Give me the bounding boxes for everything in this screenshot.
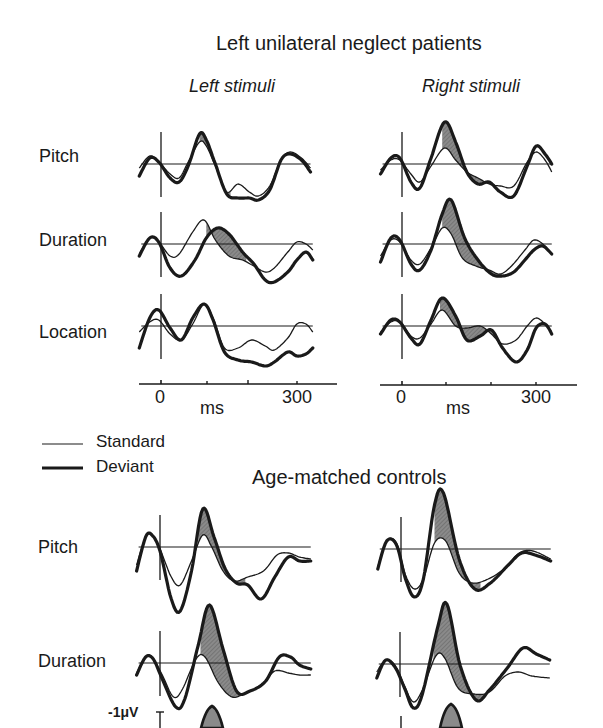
panel-age-matched-controls-left-stimuli-pitch <box>137 508 311 612</box>
waveform-panels <box>137 122 552 709</box>
deviant-waveform <box>137 605 311 709</box>
difference-shading <box>435 489 481 590</box>
panel-age-matched-controls-right-stimuli-pitch <box>378 489 551 597</box>
panel-left-unilateral-neglect-patients-right-stimuli-duration <box>381 199 552 277</box>
difference-shading <box>442 122 491 185</box>
panel-age-matched-controls-left-stimuli-duration <box>137 605 311 709</box>
controls-location-partial <box>201 704 462 728</box>
difference-shading <box>206 222 246 262</box>
erp-waveform-plot <box>0 0 603 728</box>
legend-lines <box>42 444 83 468</box>
panel-left-unilateral-neglect-patients-right-stimuli-location <box>381 294 552 362</box>
panel-left-unilateral-neglect-patients-left-stimuli-duration <box>139 212 312 283</box>
panel-left-unilateral-neglect-patients-left-stimuli-pitch <box>139 132 310 200</box>
time-axes <box>139 380 577 385</box>
difference-shading <box>201 605 255 697</box>
standard-waveform <box>139 304 312 351</box>
difference-shading <box>198 508 245 584</box>
deviant-waveform <box>139 133 310 201</box>
panel-age-matched-controls-right-stimuli-duration <box>377 602 550 708</box>
scale-bar <box>156 712 164 728</box>
deviant-waveform <box>381 122 552 198</box>
deviant-waveform <box>139 304 312 366</box>
panel-left-unilateral-neglect-patients-left-stimuli-location <box>139 294 312 366</box>
deviant-waveform <box>381 199 552 276</box>
panel-left-unilateral-neglect-patients-right-stimuli-pitch <box>381 122 552 198</box>
deviant-waveform <box>137 508 311 612</box>
deviant-waveform <box>378 489 551 597</box>
standard-waveform <box>378 538 551 589</box>
